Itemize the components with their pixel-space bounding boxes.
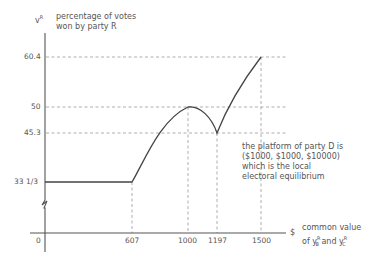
x-axis-desc-1: common value [302,223,361,233]
annotation-2: ($1000, $1000, $10000) [242,152,340,162]
y-axis-symbol: vR [35,12,43,26]
y-axis-desc-2: won by party R [56,22,117,32]
axis-break [42,192,47,252]
y-axis-desc-1: percentage of votes [56,12,136,22]
curve [45,57,261,182]
x-tick-1197: 1197 [208,236,227,246]
x-tick-1500: 1500 [252,236,271,246]
x-axis-desc-2: of yRB and yRC [302,233,346,249]
y-tick-33: 33 1/3 [14,177,38,187]
x-axis-unit: $ [290,228,295,238]
y-tick-60.4: 60.4 [24,52,41,62]
annotation-3: which is the local [242,162,311,172]
y-tick-45.3: 45.3 [24,128,41,138]
annotation-1: the platform of party D is [242,142,343,152]
annotation-4: electoral equilibrium [242,172,325,182]
x-tick-1000: 1000 [178,236,197,246]
y-tick-50: 50 [31,102,41,112]
x-tick-607: 607 [125,236,139,246]
x-tick-0: 0 [36,236,41,246]
